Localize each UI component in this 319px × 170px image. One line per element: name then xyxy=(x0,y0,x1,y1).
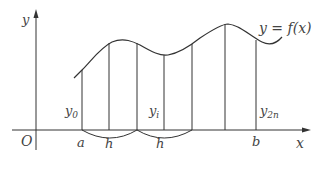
ordinate-label-y0: y0 xyxy=(64,103,78,120)
ordinate-label-yi: yi xyxy=(148,103,159,120)
tick-b: b xyxy=(252,134,260,149)
x-axis-label: x xyxy=(296,135,304,151)
curve-label: y = f(x) xyxy=(258,20,312,36)
y-axis-arrow-icon xyxy=(34,9,39,18)
x-axis-arrow-icon xyxy=(302,128,311,133)
simpson-rule-diagram: y x O y = f(x) a h h b y0 yi y2n xyxy=(0,0,319,170)
tick-h-1: h xyxy=(105,136,113,151)
ordinate-label-y2n: y2n xyxy=(259,103,279,120)
tick-h-2: h xyxy=(156,136,164,151)
tick-a: a xyxy=(77,135,85,150)
h-brace-2 xyxy=(137,130,192,138)
origin-label: O xyxy=(21,133,33,149)
curve-f xyxy=(74,24,282,78)
ordinates xyxy=(82,24,256,130)
y-axis-label: y xyxy=(21,12,30,27)
